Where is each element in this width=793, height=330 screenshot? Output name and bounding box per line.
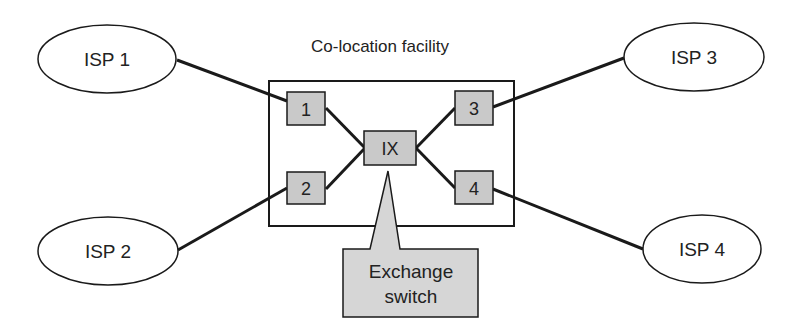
port-4: 4 — [455, 171, 493, 204]
port-4-label: 4 — [469, 179, 479, 199]
ix-switch: IX — [364, 131, 416, 165]
isp-1: ISP 1 — [38, 25, 176, 93]
isp-3: ISP 3 — [624, 23, 764, 91]
callout-line-2: switch — [385, 286, 438, 307]
isp-2-label: ISP 2 — [85, 241, 131, 262]
port-3: 3 — [455, 91, 493, 125]
port-2-label: 2 — [301, 179, 311, 199]
isp-1-label: ISP 1 — [84, 49, 130, 70]
port-2: 2 — [287, 172, 325, 204]
link-ix-port4 — [416, 148, 455, 188]
link-ix-port3 — [416, 108, 455, 148]
link-port4-isp4 — [493, 189, 643, 249]
isp-4-label: ISP 4 — [679, 239, 726, 260]
callout-line-1: Exchange — [369, 261, 454, 282]
port-1: 1 — [287, 92, 325, 125]
link-isp2-port2 — [178, 188, 287, 250]
ix-label: IX — [381, 139, 398, 159]
isp-4: ISP 4 — [643, 215, 761, 283]
isp-2: ISP 2 — [38, 217, 178, 285]
colocation-diagram: Co-location facility ISP 1 ISP 2 ISP 3 I… — [0, 0, 793, 330]
port-3-label: 3 — [469, 99, 479, 119]
link-port2-ix — [326, 148, 365, 189]
link-port1-ix — [326, 108, 365, 148]
link-port3-isp3 — [493, 58, 624, 107]
port-1-label: 1 — [301, 100, 311, 120]
facility-title: Co-location facility — [311, 37, 449, 56]
isp-3-label: ISP 3 — [671, 47, 717, 68]
